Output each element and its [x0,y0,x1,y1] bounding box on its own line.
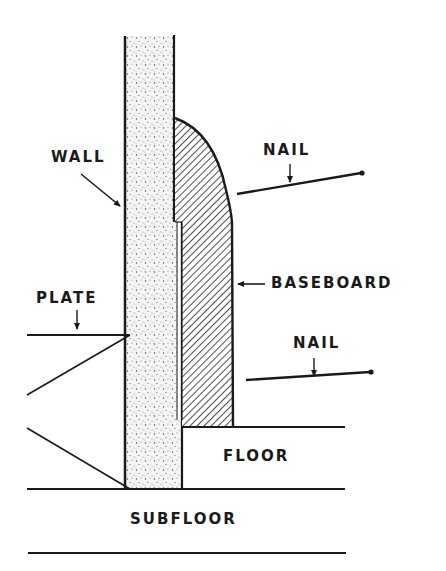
nail-lower [246,369,374,380]
plate-label: PLATE [36,291,97,306]
baseboard-diagram: WALL NAIL BASEBOARD PLATE NAIL FLOOR SUB… [0,0,446,571]
floor-label: FLOOR [223,449,289,464]
plate [27,335,130,489]
baseboard [175,118,233,427]
nail-lower-label: NAIL [293,336,340,351]
baseboard-label: BASEBOARD [271,276,392,291]
nail-upper-label: NAIL [263,143,310,158]
wall-label: WALL [51,150,106,165]
wall [125,35,182,489]
wall-arrow [81,174,120,206]
nail-upper [237,170,365,194]
subfloor-label: SUBFLOOR [130,512,237,527]
